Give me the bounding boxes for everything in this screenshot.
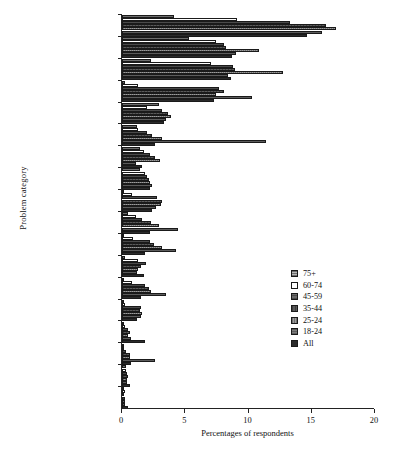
legend-label: 45-59 [303,292,322,301]
x-axis-tick [311,409,312,413]
x-axis: 05101520 [121,408,374,409]
legend-label: 35-44 [303,304,322,313]
bar [122,121,164,124]
x-axis-tick-label: 10 [233,416,263,425]
legend-item[interactable]: 60-74 [291,280,322,292]
x-axis-tick-label: 20 [359,416,389,425]
legend-label: All [303,339,313,348]
legend-label: 60-74 [303,281,322,290]
legend-swatch-icon [291,282,298,289]
x-axis-tick [184,409,185,413]
legend-item[interactable]: 18-24 [291,326,322,338]
chart-legend: 75+60-7445-5935-4425-2418-24All [291,268,322,349]
bar [122,34,307,37]
x-axis-tick [121,409,122,413]
legend-swatch-icon [291,270,298,277]
legend-swatch-icon [291,340,298,347]
bar [122,187,150,190]
legend-swatch-icon [291,328,298,335]
legend-item[interactable]: 35-44 [291,303,322,315]
x-axis-tick-label: 15 [296,416,326,425]
bar [122,274,144,277]
bar [122,55,232,58]
bar [122,340,145,343]
legend-swatch-icon [291,305,298,312]
plot-area: ConsumerNeighboursMoney / DebtEmployment… [121,14,375,408]
legend-label: 18-24 [303,327,322,336]
legend-label: 25-24 [303,316,322,325]
bar [122,143,155,146]
bar [122,318,137,321]
legend-item[interactable]: 75+ [291,268,322,280]
x-axis-tick [374,409,375,413]
x-axis-tick [248,409,249,413]
legend-label: 75+ [303,269,316,278]
x-axis-tick-label: 0 [106,416,136,425]
bar [122,384,130,387]
legend-item[interactable]: 25-24 [291,314,322,326]
bar [122,209,152,212]
x-axis-title: Percentages of respondents [121,428,374,438]
x-axis-tick-label: 5 [169,416,199,425]
bar [122,99,214,102]
bar [122,296,141,299]
y-axis-title: Problem category [18,128,28,268]
legend-item[interactable]: All [291,338,322,350]
legend-item[interactable]: 45-59 [291,291,322,303]
legend-swatch-icon [291,293,298,300]
bar [122,77,231,80]
bar [122,362,131,365]
bar [122,165,142,168]
bar [122,231,150,234]
legend-swatch-icon [291,317,298,324]
bar-chart: Problem category ConsumerNeighboursMoney… [0,0,399,472]
bar [122,252,145,255]
